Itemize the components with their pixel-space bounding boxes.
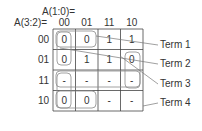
kmap-cell: - (85, 75, 88, 86)
kmap-cell: - (108, 95, 111, 106)
kmap-cell: 0 (84, 34, 90, 45)
term-4-label: Term 4 (160, 97, 191, 108)
kmap-cell: 0 (61, 95, 67, 106)
kmap-cell: - (130, 95, 133, 106)
kmap-cell: - (63, 75, 66, 86)
column-header: 01 (81, 17, 93, 28)
term1-leader-line (96, 36, 158, 45)
karnaugh-map-diagram: A(1:0)= A(3:2)= 00011110 00011110 001101… (0, 0, 202, 131)
column-header: 11 (104, 17, 115, 28)
row-header: 11 (39, 75, 50, 86)
kmap-cell: 1 (84, 54, 90, 65)
row-header: 01 (38, 54, 50, 65)
kmap-cell: - (130, 75, 133, 86)
kmap-cell: 0 (61, 34, 67, 45)
term-3-label: Term 3 (160, 78, 191, 89)
row-header: 10 (38, 95, 50, 106)
kmap-cell: 1 (106, 34, 112, 45)
kmap-cell: 0 (84, 95, 90, 106)
column-header: 00 (59, 17, 71, 28)
kmap-cell: 0 (61, 54, 67, 65)
column-header: 10 (126, 17, 138, 28)
term4-leader-line (143, 103, 158, 106)
kmap-cell: - (108, 75, 111, 86)
term-2-label: Term 2 (160, 58, 191, 69)
term-1-label: Term 1 (160, 39, 191, 50)
row-variable-label: A(3:2)= (14, 17, 47, 28)
column-variable-label: A(1:0)= (42, 6, 75, 17)
kmap-cell: 1 (129, 34, 135, 45)
row-header: 00 (38, 34, 50, 45)
